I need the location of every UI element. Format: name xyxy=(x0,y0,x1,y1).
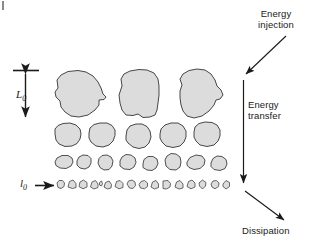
eddy-tiny-13 xyxy=(199,180,206,189)
eddy-small-5 xyxy=(143,157,158,171)
eddy-tiny-9 xyxy=(151,181,159,190)
eddy-medium-3 xyxy=(126,124,151,149)
energy-transfer-label: Energy transfer xyxy=(248,99,314,121)
eddy-tiny-4 xyxy=(91,181,99,190)
row-small-eddies xyxy=(55,154,227,171)
small-scale-label: l0 xyxy=(20,177,27,192)
row-medium-eddies xyxy=(55,122,220,149)
small-scale-subscript: 0 xyxy=(23,183,27,192)
eddy-tiny-11 xyxy=(175,181,183,190)
eddy-tiny-8 xyxy=(139,181,148,189)
figure-canvas: Energy injection Energy transfer Dissipa… xyxy=(0,0,316,252)
energy-injection-arrow xyxy=(246,36,286,74)
eddy-medium-4 xyxy=(160,123,186,148)
row-dissipative-eddies xyxy=(57,180,230,189)
eddy-medium-5 xyxy=(194,122,220,147)
dissipation-label: Dissipation xyxy=(242,225,316,236)
row-large-eddies xyxy=(55,69,223,118)
eddy-tiny-16 xyxy=(100,181,103,186)
eddy-small-6 xyxy=(165,154,181,171)
eddy-small-3 xyxy=(98,155,113,170)
dissipation-arrow xyxy=(245,191,284,220)
eddy-large-3 xyxy=(180,69,223,118)
eddy-tiny-6 xyxy=(115,181,123,189)
eddy-tiny-3 xyxy=(79,180,87,189)
eddy-small-4 xyxy=(120,155,136,170)
eddy-tiny-14 xyxy=(211,181,219,189)
eddy-large-2 xyxy=(119,70,159,118)
eddy-tiny-15 xyxy=(223,181,230,190)
large-scale-label: L0 xyxy=(16,88,26,103)
eddy-small-2 xyxy=(77,155,91,169)
eddy-tiny-5 xyxy=(104,181,112,189)
eddy-tiny-10 xyxy=(163,181,171,190)
eddy-tiny-7 xyxy=(127,180,136,189)
eddy-tiny-12 xyxy=(187,180,195,189)
large-scale-subscript: 0 xyxy=(22,94,26,103)
eddy-large-1 xyxy=(55,71,106,118)
energy-injection-label: Energy injection xyxy=(240,8,312,30)
eddy-tiny-1 xyxy=(57,181,65,189)
eddy-medium-2 xyxy=(89,123,115,147)
eddy-tiny-2 xyxy=(68,180,76,189)
eddy-medium-1 xyxy=(55,123,81,147)
eddy-small-8 xyxy=(211,156,227,171)
cascade-svg xyxy=(0,0,316,252)
eddy-small-7 xyxy=(187,155,205,170)
eddy-small-1 xyxy=(55,156,73,169)
